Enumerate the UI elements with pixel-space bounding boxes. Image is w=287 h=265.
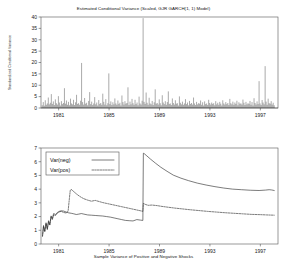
y-tick-label: 20 — [31, 59, 37, 65]
y-tick-label: 3 — [34, 200, 37, 206]
y-tick-label: 5 — [34, 93, 37, 99]
conditional-variance-svg: 051015202530354019811985198919931997Stan… — [0, 0, 287, 128]
conditional-variance-plot: 051015202530354019811985198919931997Stan… — [0, 0, 287, 128]
series-var-pos — [43, 189, 275, 236]
y-tick-label: 10 — [31, 82, 37, 88]
y-tick-label: 30 — [31, 37, 37, 43]
figure-page: Estimated Conditional Variance (Scaled, … — [0, 0, 287, 265]
x-tick-label: 1981 — [53, 248, 64, 254]
legend-label: Var(neg) — [50, 157, 71, 163]
x-tick-label: 1993 — [204, 112, 215, 118]
y-tick-label: 15 — [31, 71, 37, 77]
y-tick-label: 0 — [34, 105, 37, 111]
y-tick-label: 7 — [34, 145, 37, 151]
y-tick-label: 25 — [31, 48, 37, 54]
spike-series — [42, 18, 274, 108]
legend-label: Var(pos) — [50, 167, 70, 173]
plot-frame — [41, 17, 278, 108]
x-tick-label: 1993 — [204, 248, 215, 254]
conditional-variance-panel: Estimated Conditional Variance (Scaled, … — [0, 0, 287, 128]
y-tick-label: 5 — [34, 172, 37, 178]
x-tick-label: 1985 — [104, 112, 115, 118]
y-tick-label: 6 — [34, 159, 37, 165]
sample-variance-plot: 0123456719811985198919931997Var(neg)Var(… — [0, 126, 287, 265]
y-tick-label: 2 — [34, 213, 37, 219]
sample-variance-panel: Sample Variance of Positive and Negative… — [0, 126, 287, 265]
y-tick-label: 0 — [34, 241, 37, 247]
y-tick-label: 1 — [34, 227, 37, 233]
x-tick-label: 1997 — [255, 248, 266, 254]
y-axis-label: Standardized Conditional Variance — [8, 35, 12, 90]
x-tick-label: 1997 — [255, 112, 266, 118]
y-tick-label: 4 — [34, 186, 37, 192]
x-tick-label: 1981 — [53, 112, 64, 118]
y-tick-label: 35 — [31, 25, 37, 31]
sample-variance-svg: 0123456719811985198919931997Var(neg)Var(… — [0, 126, 287, 265]
x-tick-label: 1985 — [104, 248, 115, 254]
x-tick-label: 1989 — [154, 112, 165, 118]
x-tick-label: 1989 — [154, 248, 165, 254]
y-tick-label: 40 — [31, 14, 37, 20]
